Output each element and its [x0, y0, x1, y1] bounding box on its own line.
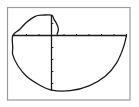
screen-frame [8, 8, 131, 101]
calculator-screen [0, 0, 139, 107]
polar-plot [0, 0, 139, 107]
